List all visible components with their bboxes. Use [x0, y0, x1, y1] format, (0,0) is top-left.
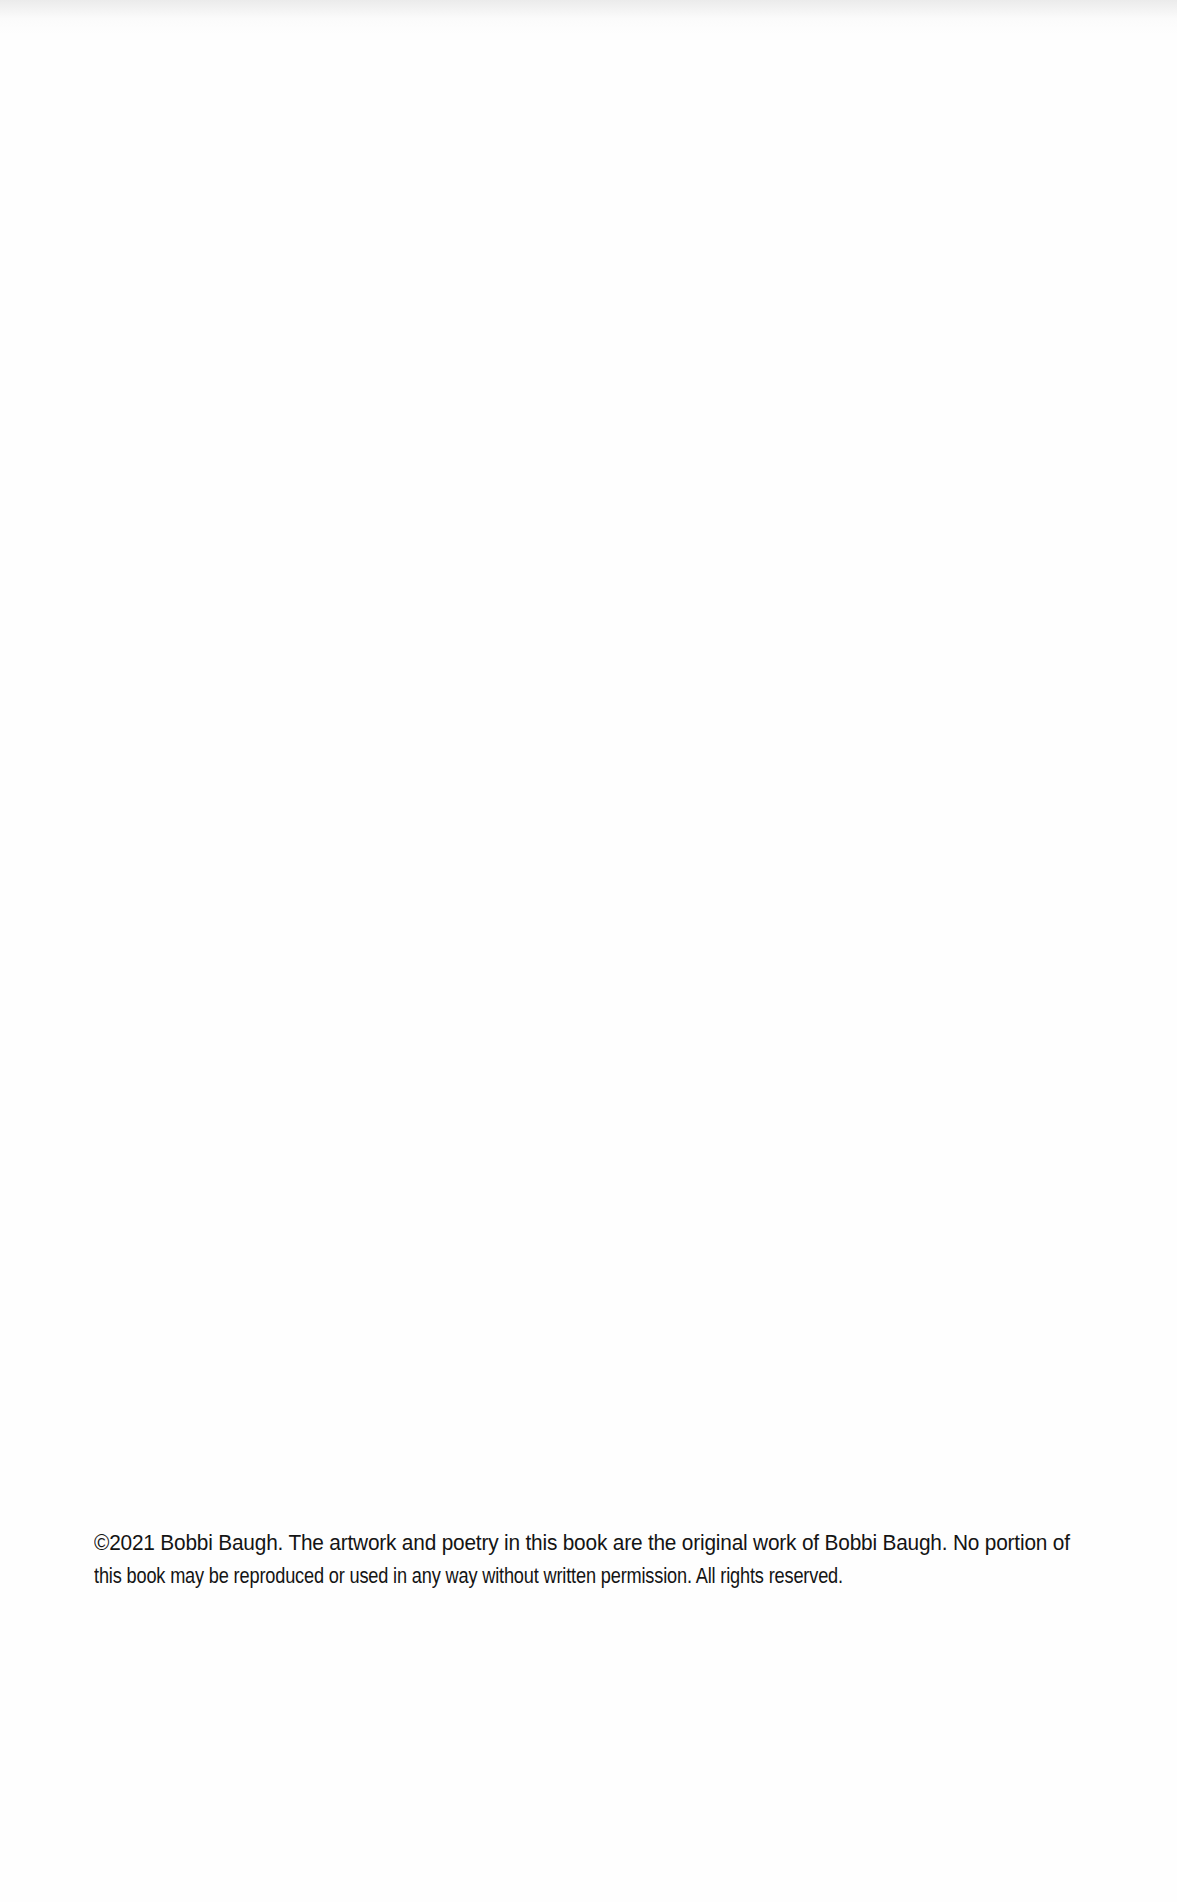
copyright-line-2: this book may be reproduced or used in a… [94, 1559, 982, 1592]
copyright-line-1: ©2021 Bobbi Baugh. The artwork and poetr… [94, 1526, 1112, 1559]
page-bleed-through-shadow [0, 0, 1177, 34]
book-page: ©2021 Bobbi Baugh. The artwork and poetr… [0, 0, 1177, 1902]
copyright-notice: ©2021 Bobbi Baugh. The artwork and poetr… [94, 1526, 1177, 1592]
